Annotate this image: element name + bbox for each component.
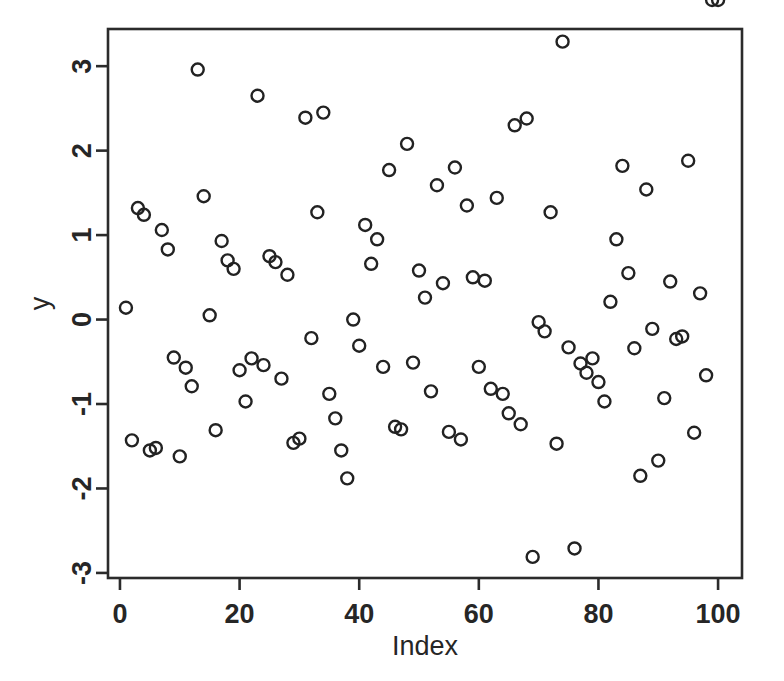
y-tick-label-2: 2	[67, 143, 97, 158]
y-tick-label--2: -2	[67, 476, 97, 500]
x-tick-label-0: 0	[112, 599, 127, 629]
y-tick-label-1: 1	[67, 228, 97, 243]
scatter-plot-figure: 020406080100 -3-2-10123 Index y	[0, 0, 784, 681]
x-tick-label-20: 20	[225, 599, 255, 629]
x-tick-label-40: 40	[344, 599, 374, 629]
x-tick-label-100: 100	[696, 599, 741, 629]
plot-canvas: 020406080100 -3-2-10123 Index y	[0, 0, 784, 681]
y-tick-label--3: -3	[67, 561, 97, 585]
y-axis-title: y	[25, 296, 55, 310]
y-tick-label-3: 3	[67, 59, 97, 74]
x-tick-label-80: 80	[583, 599, 613, 629]
y-tick-label--1: -1	[67, 392, 97, 416]
x-tick-label-60: 60	[464, 599, 494, 629]
y-tick-label-0: 0	[67, 312, 97, 327]
x-axis-title: Index	[392, 631, 459, 661]
